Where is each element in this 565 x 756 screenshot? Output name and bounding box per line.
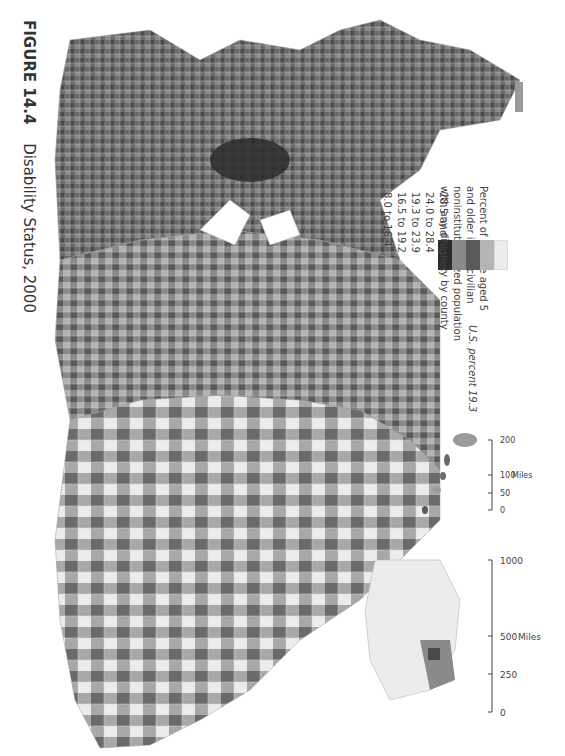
legend-class-labels: 28.5 and higher 24.0 to 28.4 19.3 to 23.… (380, 192, 450, 272)
puerto-rico-inset (515, 82, 523, 112)
scale-tick: 0 (500, 708, 506, 718)
legend-swatch-5 (494, 240, 508, 270)
legend-swatch-2 (452, 240, 466, 270)
scale-tick: 50 (500, 489, 510, 498)
alaska-scale-bar (488, 560, 492, 712)
scale-tick: 1000 (500, 556, 523, 566)
legend-label-1: 28.5 and higher (436, 192, 450, 272)
legend-label-4: 16.5 to 19.2 (394, 192, 408, 272)
hawaii-scale-bar (488, 440, 492, 510)
scale-tick: 250 (500, 670, 517, 680)
scale-tick: 500 (500, 632, 517, 642)
scale-tick: 0 (500, 506, 505, 515)
scale-unit: Miles (512, 471, 532, 480)
us-county-map (0, 0, 565, 756)
appalachian-high-cluster (210, 138, 290, 182)
scale-unit: Miles (518, 632, 541, 642)
legend-swatch-4 (480, 240, 494, 270)
us-percent-note: U.S. percent 19.3 (467, 325, 478, 412)
scale-tick: 200 (500, 436, 515, 445)
legend-label-3: 19.3 to 23.9 (408, 192, 422, 272)
legend-label-2: 24.0 to 28.4 (422, 192, 436, 272)
legend-label-5: 8.0 to 16.4 (380, 192, 394, 272)
legend-swatch-3 (466, 240, 480, 270)
alaska-dark-county (428, 648, 440, 660)
